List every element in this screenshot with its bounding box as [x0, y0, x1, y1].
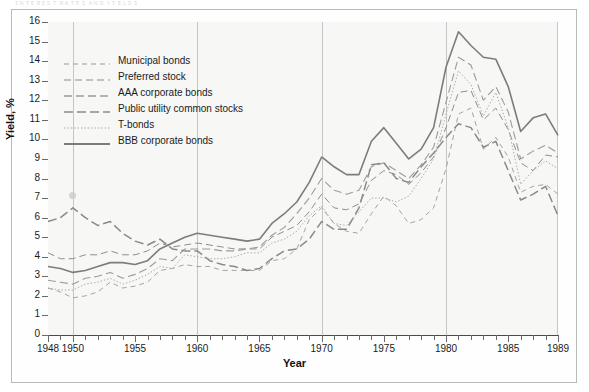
x-tick-major [558, 335, 559, 342]
legend-item-3[interactable]: Public utility common stocks [64, 100, 279, 116]
x-tick-label: 1989 [547, 343, 569, 354]
x-tick-minor [110, 335, 111, 340]
x-axis-line [48, 335, 559, 336]
x-axis-title: Year [0, 357, 589, 369]
y-tick-label: 13 [0, 74, 40, 85]
x-tick-label: 1985 [497, 343, 519, 354]
y-tick-label: 3 [0, 269, 40, 280]
x-tick-minor [222, 335, 223, 340]
x-tick-minor [123, 335, 124, 340]
y-tick-label: 15 [0, 35, 40, 46]
x-tick-minor [471, 335, 472, 340]
x-tick-label: 1948 [37, 343, 59, 354]
x-tick-minor [334, 335, 335, 340]
y-tick-label: 16 [0, 15, 40, 26]
x-tick-minor [347, 335, 348, 340]
y-tick-label: 11 [0, 113, 40, 124]
x-tick-major [446, 335, 447, 342]
x-tick-minor [409, 335, 410, 340]
y-tick-label: 4 [0, 250, 40, 261]
x-tick-minor [297, 335, 298, 340]
legend-label: BBB corporate bonds [118, 135, 213, 146]
x-tick-minor [284, 335, 285, 340]
page-caption-fragment: ＩＮＴＥＲＥＳＴ ＲＡＴＥＳ ＡＮＤ ＹＩＥＬＤＳ [14, 0, 244, 7]
legend-swatch-icon [64, 55, 110, 65]
x-tick-minor [546, 335, 547, 340]
legend-item-2[interactable]: AAA corporate bonds [64, 84, 279, 100]
x-tick-minor [98, 335, 99, 340]
x-tick-major [322, 335, 323, 342]
x-tick-minor [458, 335, 459, 340]
x-tick-major [135, 335, 136, 342]
x-tick-minor [148, 335, 149, 340]
x-tick-label: 1980 [435, 343, 457, 354]
legend-label: Municipal bonds [118, 55, 190, 66]
x-tick-minor [533, 335, 534, 340]
x-tick-minor [371, 335, 372, 340]
x-tick-minor [483, 335, 484, 340]
x-tick-minor [521, 335, 522, 340]
x-tick-minor [210, 335, 211, 340]
x-tick-minor [172, 335, 173, 340]
x-tick-minor [60, 335, 61, 340]
x-tick-major [73, 335, 74, 342]
chart-legend: Municipal bondsPreferred stockAAA corpor… [64, 52, 279, 148]
legend-swatch-icon [64, 103, 110, 113]
x-tick-minor [185, 335, 186, 340]
x-tick-label: 1970 [311, 343, 333, 354]
legend-label: Public utility common stocks [118, 103, 243, 114]
x-tick-major [259, 335, 260, 342]
y-tick-label: 9 [0, 152, 40, 163]
x-tick-minor [85, 335, 86, 340]
x-tick-label: 1955 [124, 343, 146, 354]
legend-swatch-icon [64, 71, 110, 81]
x-tick-label: 1960 [186, 343, 208, 354]
x-tick-minor [160, 335, 161, 340]
x-tick-minor [421, 335, 422, 340]
y-tick-label: 2 [0, 289, 40, 300]
y-tick-label: 7 [0, 191, 40, 202]
figure-root: ＩＮＴＥＲＥＳＴ ＲＡＴＥＳ ＡＮＤ ＹＩＥＬＤＳ Yield, % Year … [0, 0, 589, 392]
x-tick-major [384, 335, 385, 342]
x-tick-minor [396, 335, 397, 340]
y-tick-label: 12 [0, 93, 40, 104]
y-tick-label: 1 [0, 308, 40, 319]
x-tick-minor [434, 335, 435, 340]
y-tick-label: 10 [0, 132, 40, 143]
legend-label: AAA corporate bonds [118, 87, 213, 98]
x-tick-label: 1965 [248, 343, 270, 354]
legend-label: Preferred stock [118, 71, 186, 82]
x-tick-major [508, 335, 509, 342]
x-tick-minor [496, 335, 497, 340]
y-tick-label: 8 [0, 172, 40, 183]
legend-swatch-icon [64, 87, 110, 97]
legend-swatch-icon [64, 135, 110, 145]
x-tick-major [48, 335, 49, 342]
legend-label: T-bonds [118, 119, 154, 130]
x-tick-minor [309, 335, 310, 340]
x-tick-label: 1950 [62, 343, 84, 354]
x-tick-minor [359, 335, 360, 340]
x-tick-minor [235, 335, 236, 340]
y-tick-label: 14 [0, 54, 40, 65]
legend-swatch-icon [64, 119, 110, 129]
legend-item-4[interactable]: T-bonds [64, 116, 279, 132]
legend-item-1[interactable]: Preferred stock [64, 68, 279, 84]
data-marker-dot [69, 192, 76, 199]
x-tick-minor [247, 335, 248, 340]
x-tick-minor [272, 335, 273, 340]
y-tick-label: 6 [0, 211, 40, 222]
x-tick-label: 1975 [373, 343, 395, 354]
legend-item-5[interactable]: BBB corporate bonds [64, 132, 279, 148]
x-tick-major [197, 335, 198, 342]
y-tick-label: 0 [0, 328, 40, 339]
legend-item-0[interactable]: Municipal bonds [64, 52, 279, 68]
y-tick-label: 5 [0, 230, 40, 241]
